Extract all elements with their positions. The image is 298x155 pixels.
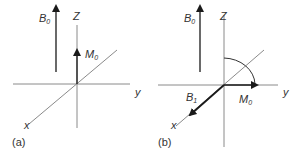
b1-label: B1 xyxy=(186,91,197,104)
panel-b: B0 Z M0 B1 y x (b) xyxy=(158,6,290,148)
x-axis xyxy=(29,50,117,124)
x-label: x xyxy=(23,119,30,131)
b0-label: B0 xyxy=(39,12,50,25)
m0-label: M0 xyxy=(239,93,252,106)
b0-label: B0 xyxy=(184,12,195,25)
z-label: Z xyxy=(72,10,81,22)
y-label: y xyxy=(134,86,142,98)
z-label: Z xyxy=(219,10,228,22)
caption-a: (a) xyxy=(12,136,25,148)
m0-label: M0 xyxy=(85,48,98,61)
caption-b: (b) xyxy=(158,136,171,148)
x-label: x xyxy=(170,119,177,131)
y-label: y xyxy=(282,86,290,98)
panel-a: B0 Z M0 y x (a) xyxy=(12,6,142,148)
magnetization-diagram: B0 Z M0 y x (a) B0 Z M0 B1 y x (b) xyxy=(0,0,298,155)
